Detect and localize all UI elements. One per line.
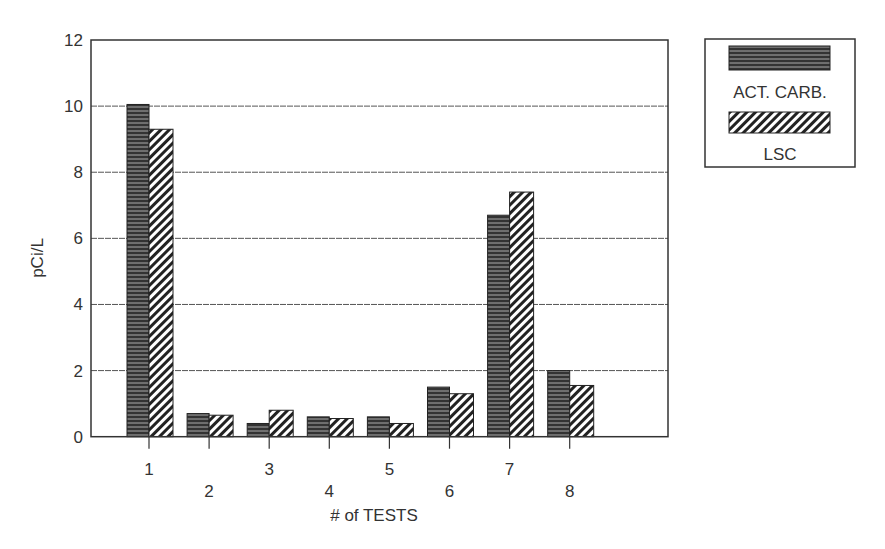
x-tick-label: 1 bbox=[144, 460, 153, 479]
x-tick-label: 5 bbox=[385, 460, 394, 479]
y-tick-label: 4 bbox=[74, 295, 83, 314]
x-tick-label: 6 bbox=[445, 482, 454, 501]
bar-lsc bbox=[209, 415, 233, 436]
gridlines bbox=[91, 106, 668, 370]
bar-lsc bbox=[389, 423, 413, 436]
y-tick-label: 0 bbox=[74, 428, 83, 447]
legend-swatch-lsc bbox=[729, 112, 830, 133]
bar-lsc bbox=[510, 192, 534, 437]
bar-act-carb bbox=[367, 417, 389, 437]
x-axis-label: # of TESTS bbox=[330, 506, 418, 525]
x-tick-label: 8 bbox=[565, 482, 574, 501]
bar-act-carb bbox=[127, 104, 149, 436]
x-tick-label: 3 bbox=[264, 460, 273, 479]
legend: ACT. CARB. LSC bbox=[705, 39, 855, 167]
bars bbox=[127, 104, 594, 436]
x-tick-label: 2 bbox=[204, 482, 213, 501]
y-tick-label: 12 bbox=[64, 31, 83, 50]
y-tick-label: 10 bbox=[64, 97, 83, 116]
bar-lsc bbox=[149, 129, 173, 436]
bar-lsc bbox=[269, 410, 293, 436]
bar-lsc bbox=[450, 394, 474, 437]
bar-act-carb bbox=[187, 414, 209, 437]
bar-lsc bbox=[329, 419, 353, 437]
bar-act-carb bbox=[247, 423, 269, 436]
legend-label-lsc: LSC bbox=[763, 145, 796, 164]
y-tick-label: 6 bbox=[74, 229, 83, 248]
x-tick-label: 7 bbox=[505, 460, 514, 479]
x-tick-label: 4 bbox=[325, 482, 334, 501]
y-tick-label: 8 bbox=[74, 163, 83, 182]
bar-lsc bbox=[570, 385, 594, 436]
legend-swatch-act-carb bbox=[729, 46, 830, 70]
bar-act-carb bbox=[428, 387, 450, 437]
x-axis-ticks: 12345678 bbox=[144, 437, 574, 501]
y-axis-label: pCi/L bbox=[28, 238, 47, 278]
bar-act-carb bbox=[488, 215, 510, 436]
bar-act-carb bbox=[548, 371, 570, 437]
y-tick-label: 2 bbox=[74, 362, 83, 381]
legend-label-act-carb: ACT. CARB. bbox=[733, 83, 827, 102]
y-axis-ticks: 024681012 bbox=[64, 31, 83, 447]
bar-chart: 024681012 12345678 pCi/L # of TESTS ACT.… bbox=[0, 0, 885, 549]
bar-act-carb bbox=[307, 417, 329, 437]
